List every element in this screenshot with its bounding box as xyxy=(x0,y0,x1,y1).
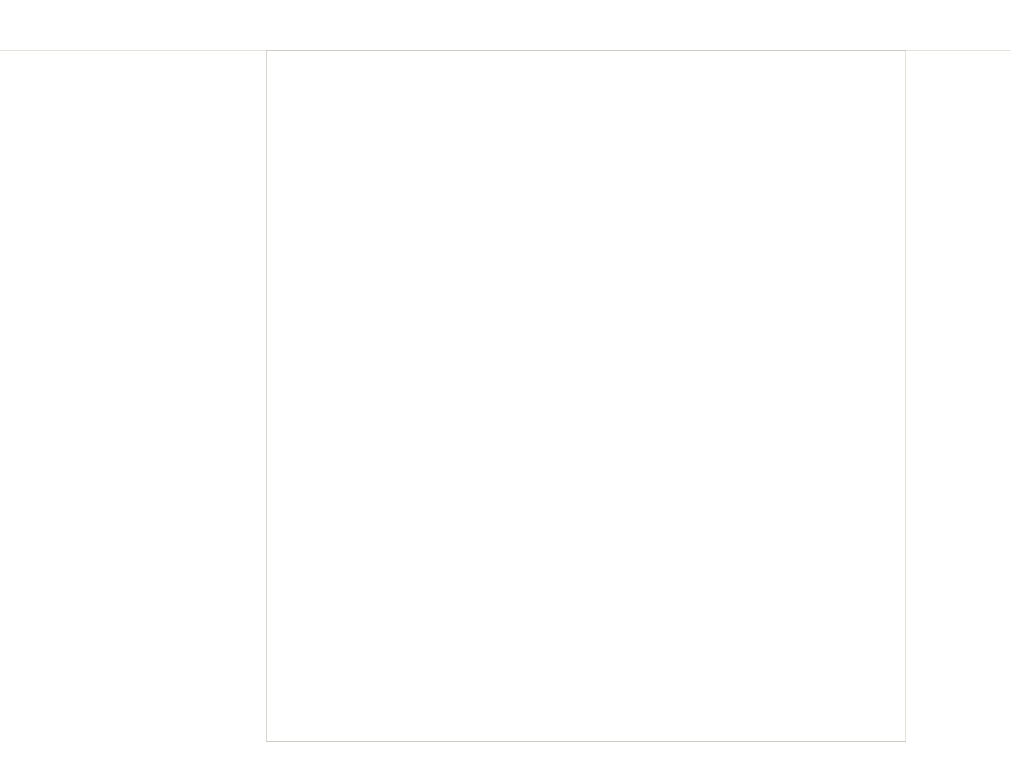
legend-spacer xyxy=(926,9,1011,16)
legend xyxy=(926,6,1011,28)
plot-area xyxy=(266,51,906,741)
legend-swatch-relative-frequency xyxy=(926,16,936,26)
legend-item-relative-frequency[interactable] xyxy=(926,16,1011,26)
chart-canvas xyxy=(0,0,1011,783)
bottom-axis-rule xyxy=(266,741,906,742)
